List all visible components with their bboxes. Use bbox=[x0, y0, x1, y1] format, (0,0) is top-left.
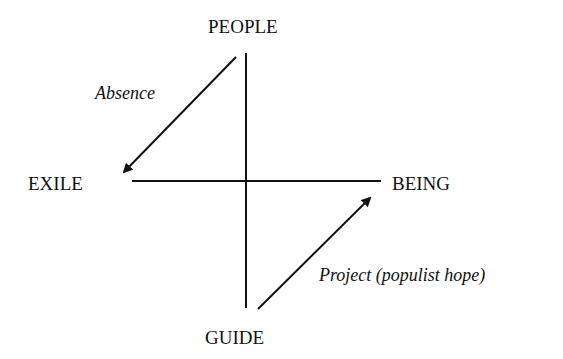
node-exile: EXILE bbox=[28, 173, 83, 195]
node-people: PEOPLE bbox=[208, 16, 278, 38]
node-being: BEING bbox=[392, 173, 450, 195]
edge-label-project: Project (populist hope) bbox=[319, 265, 485, 286]
diagram-canvas: PEOPLE EXILE BEING GUIDE Absence Project… bbox=[0, 0, 563, 359]
axes-and-arrows bbox=[0, 0, 563, 359]
node-guide: GUIDE bbox=[205, 327, 264, 349]
edge-label-absence: Absence bbox=[95, 83, 155, 104]
project-arrow bbox=[258, 198, 370, 309]
absence-arrow bbox=[124, 57, 236, 172]
